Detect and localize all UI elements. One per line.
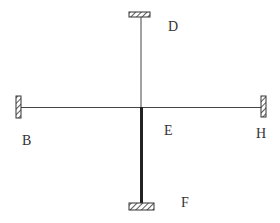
frame-diagram: D B E H F [0, 0, 280, 223]
fixed-support-h [261, 96, 266, 117]
fixed-support-b [16, 96, 21, 118]
label-e: E [164, 123, 173, 138]
label-f: F [181, 195, 189, 210]
fixed-support-d [129, 12, 150, 17]
label-b: B [22, 133, 31, 148]
label-h: H [256, 126, 266, 141]
fixed-support-f [129, 203, 154, 210]
label-d: D [168, 19, 178, 34]
